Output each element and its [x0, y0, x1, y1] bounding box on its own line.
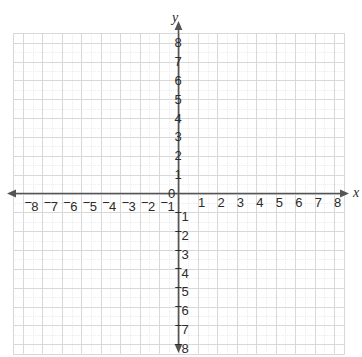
- x-axis-tick-label: −4: [102, 196, 116, 213]
- x-axis-tick-label: 3: [237, 196, 244, 209]
- tick-value: 7: [51, 199, 58, 214]
- tick-value: 2: [148, 199, 155, 214]
- tick-value: 6: [181, 303, 188, 318]
- negative-sign: −: [122, 196, 129, 209]
- tick-value: 8: [334, 195, 341, 210]
- x-axis-tick-label: 8: [334, 196, 341, 209]
- tick-value: 3: [175, 129, 182, 144]
- tick-value: 5: [90, 199, 97, 214]
- tick-value: 3: [129, 199, 136, 214]
- tick-value: 5: [175, 92, 182, 107]
- y-axis-tick-label: 5: [175, 93, 182, 106]
- y-axis-tick-label: 2: [175, 149, 182, 162]
- tick-value: 1: [167, 199, 174, 214]
- tick-value: 7: [315, 195, 322, 210]
- tick-value: 4: [181, 266, 188, 281]
- tick-value: 5: [276, 195, 283, 210]
- tick-value: 3: [181, 247, 188, 262]
- tick-value: 7: [181, 322, 188, 337]
- y-axis-tick-label: −4: [175, 262, 189, 279]
- tick-value: 4: [256, 195, 263, 210]
- x-axis-tick-label: −5: [83, 196, 97, 213]
- y-axis-tick-label: −5: [175, 281, 189, 298]
- y-axis-tick-label: −6: [175, 300, 189, 317]
- x-axis-tick-label: −2: [141, 196, 155, 213]
- y-axis-tick-label: 7: [175, 55, 182, 68]
- tick-value: 6: [70, 199, 77, 214]
- x-axis-tick-label: 2: [217, 196, 224, 209]
- tick-value: 8: [181, 341, 188, 356]
- x-axis-left-arrowhead: [7, 190, 16, 198]
- x-axis-label: x: [353, 186, 359, 200]
- x-axis-tick-label: −6: [63, 196, 77, 213]
- y-axis-tick-label: −7: [175, 319, 189, 336]
- tick-value: 8: [175, 35, 182, 50]
- coordinate-plane-figure: −8−7−6−5−4−3−2−112345678 87654321−1−2−3−…: [0, 0, 362, 357]
- y-axis-tick-label: 6: [175, 74, 182, 87]
- y-axis-tick-label: −1: [175, 206, 189, 223]
- y-axis-label: y: [172, 11, 178, 25]
- y-axis-tick-label: 8: [175, 36, 182, 49]
- tick-value: 6: [175, 73, 182, 88]
- x-axis-tick-label: 1: [198, 196, 205, 209]
- x-axis-tick-label: −8: [24, 196, 38, 213]
- y-axis-tick-label: −8: [175, 338, 189, 355]
- x-axis-tick-label: −7: [44, 196, 58, 213]
- tick-value: 2: [181, 228, 188, 243]
- tick-value: 1: [181, 209, 188, 224]
- y-axis-tick-label: −2: [175, 225, 189, 242]
- y-axis-tick-label: 4: [175, 112, 182, 125]
- x-axis-tick-label: −3: [122, 196, 136, 213]
- tick-value: 3: [237, 195, 244, 210]
- x-axis-tick-label: 7: [315, 196, 322, 209]
- x-axis-tick-label: 6: [295, 196, 302, 209]
- x-axis-tick-label: 4: [256, 196, 263, 209]
- y-axis-tick-label: 3: [175, 130, 182, 143]
- tick-value: 1: [175, 167, 182, 182]
- tick-value: 5: [181, 284, 188, 299]
- y-axis-tick-label: 1: [175, 168, 182, 181]
- tick-value: 2: [175, 148, 182, 163]
- tick-value: 1: [198, 195, 205, 210]
- y-axis-tick-label: −3: [175, 244, 189, 261]
- tick-value: 4: [109, 199, 116, 214]
- tick-value: 2: [217, 195, 224, 210]
- origin-label: 0: [168, 187, 175, 200]
- tick-value: 8: [31, 199, 38, 214]
- x-axis-tick-label: 5: [276, 196, 283, 209]
- tick-value: 4: [175, 111, 182, 126]
- tick-value: 7: [175, 54, 182, 69]
- tick-value: 6: [295, 195, 302, 210]
